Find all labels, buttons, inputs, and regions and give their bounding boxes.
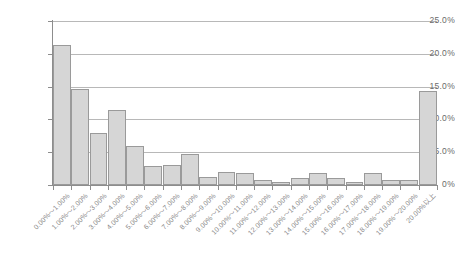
x-tick-mark: [364, 186, 365, 190]
bar-chart: 0%5.0%10.0%15.0%20.0%25.0% 0.00%～1.00%1.…: [0, 0, 455, 260]
bar: [364, 173, 382, 185]
x-tick-mark: [346, 186, 347, 190]
bar: [90, 133, 108, 185]
x-tick-mark: [254, 186, 255, 190]
bar: [236, 173, 254, 185]
x-tick-mark: [382, 186, 383, 190]
x-tick-mark: [53, 186, 54, 190]
x-tick-mark: [144, 186, 145, 190]
x-tick-mark: [309, 186, 310, 190]
bar: [53, 45, 71, 185]
bar: [291, 178, 309, 185]
x-axis-line: [52, 185, 438, 186]
x-tick-mark: [90, 186, 91, 190]
x-tick-mark: [181, 186, 182, 190]
bar: [400, 180, 418, 185]
x-tick-mark: [236, 186, 237, 190]
bar: [163, 165, 181, 185]
x-tick-mark: [163, 186, 164, 190]
bar: [199, 177, 217, 185]
bar: [144, 166, 162, 185]
bar: [272, 182, 290, 185]
plot-area: [53, 21, 437, 185]
bar: [382, 180, 400, 185]
x-tick-mark: [218, 186, 219, 190]
x-tick-mark: [291, 186, 292, 190]
bar: [309, 173, 327, 185]
bar: [346, 182, 364, 185]
x-tick-mark: [400, 186, 401, 190]
bar: [126, 146, 144, 185]
bar: [108, 110, 126, 185]
bar: [71, 89, 89, 185]
x-tick-mark: [126, 186, 127, 190]
x-tick-mark: [272, 186, 273, 190]
bar: [218, 172, 236, 185]
x-tick-mark: [327, 186, 328, 190]
bar: [254, 180, 272, 185]
x-tick-mark: [199, 186, 200, 190]
x-tick-mark: [108, 186, 109, 190]
x-tick-mark: [419, 186, 420, 190]
bar: [327, 178, 345, 185]
bar: [419, 91, 437, 185]
bar: [181, 154, 199, 185]
x-tick-mark: [437, 186, 438, 190]
x-tick-mark: [71, 186, 72, 190]
